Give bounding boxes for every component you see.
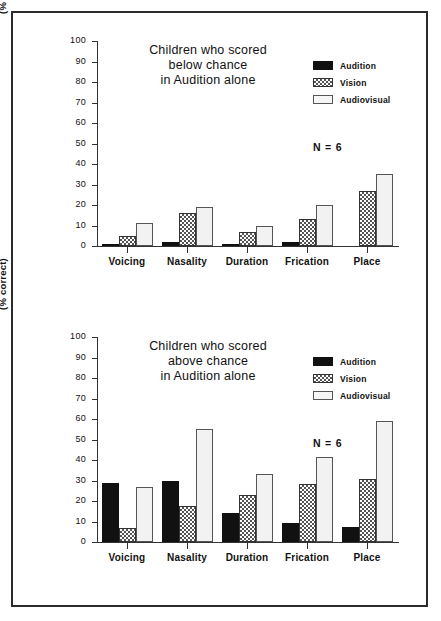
y-tick-30: 30 bbox=[53, 185, 98, 186]
x-tick-duration bbox=[247, 543, 248, 549]
y-tick-label: 70 bbox=[60, 393, 86, 403]
bar-group-nasality bbox=[162, 337, 213, 542]
y-tick-20: 20 bbox=[53, 501, 98, 502]
x-tick-frication bbox=[307, 247, 308, 253]
chart-panel-below-chance: Information Transmitted (% correct) Chil… bbox=[13, 13, 426, 309]
y-tick-label: 10 bbox=[60, 516, 86, 526]
chart-panel-above-chance: Information Transmitted (% correct) Chil… bbox=[13, 309, 426, 605]
y-axis-title: Information Transmitted (% correct) bbox=[0, 199, 9, 369]
y-tick-0: 0 bbox=[53, 542, 98, 543]
x-axis-line bbox=[97, 542, 399, 543]
y-tick-label: 20 bbox=[60, 199, 86, 209]
bar-duration-audiovisual bbox=[256, 226, 273, 247]
bar-place-vision bbox=[359, 479, 376, 542]
bar-frication-audition bbox=[282, 523, 299, 542]
bar-duration-audition bbox=[222, 513, 239, 542]
y-tick-label: 50 bbox=[60, 138, 86, 148]
bar-frication-audition bbox=[282, 242, 299, 246]
bar-voicing-audiovisual bbox=[136, 223, 153, 246]
bar-group-place bbox=[342, 41, 393, 246]
bar-nasality-vision bbox=[179, 213, 196, 246]
bar-frication-vision bbox=[299, 484, 316, 542]
x-tick-place bbox=[367, 543, 368, 549]
y-tick-100: 100 bbox=[53, 337, 98, 338]
x-axis-line bbox=[97, 246, 399, 247]
y-tick-30: 30 bbox=[53, 481, 98, 482]
y-tick-label: 90 bbox=[60, 56, 86, 66]
bar-group-nasality bbox=[162, 41, 213, 246]
y-tick-label: 40 bbox=[60, 454, 86, 464]
x-tick-voicing bbox=[127, 543, 128, 549]
bar-place-audiovisual bbox=[376, 421, 393, 542]
y-tick-label: 30 bbox=[60, 475, 86, 485]
bar-frication-audiovisual bbox=[316, 205, 333, 246]
x-tick-nasality bbox=[187, 543, 188, 549]
y-tick-100: 100 bbox=[53, 41, 98, 42]
y-tick-20: 20 bbox=[53, 205, 98, 206]
bar-place-audition bbox=[342, 527, 359, 542]
x-tick-nasality bbox=[187, 247, 188, 253]
y-tick-40: 40 bbox=[53, 460, 98, 461]
y-tick-60: 60 bbox=[53, 123, 98, 124]
y-tick-label: 50 bbox=[60, 434, 86, 444]
bar-nasality-audiovisual bbox=[196, 207, 213, 246]
bar-voicing-audition bbox=[102, 244, 119, 246]
bar-duration-audition bbox=[222, 244, 239, 246]
y-tick-50: 50 bbox=[53, 440, 98, 441]
y-tick-10: 10 bbox=[53, 226, 98, 227]
y-tick-mark bbox=[92, 542, 98, 543]
x-tick-place bbox=[367, 247, 368, 253]
bar-duration-audiovisual bbox=[256, 474, 273, 542]
y-tick-80: 80 bbox=[53, 82, 98, 83]
bar-place-audiovisual bbox=[376, 174, 393, 246]
bar-group-frication bbox=[282, 337, 333, 542]
bar-voicing-vision bbox=[119, 528, 136, 542]
bar-voicing-audiovisual bbox=[136, 487, 153, 542]
y-axis-title: Information Transmitted (% correct) bbox=[0, 0, 9, 73]
bar-duration-vision bbox=[239, 232, 256, 246]
bar-group-duration bbox=[222, 337, 273, 542]
bar-group-frication bbox=[282, 41, 333, 246]
bar-nasality-audition bbox=[162, 242, 179, 246]
y-tick-70: 70 bbox=[53, 103, 98, 104]
y-tick-label: 80 bbox=[60, 76, 86, 86]
y-tick-80: 80 bbox=[53, 378, 98, 379]
y-tick-label: 20 bbox=[60, 495, 86, 505]
bar-group-duration bbox=[222, 41, 273, 246]
x-axis-label-place: Place bbox=[332, 256, 402, 267]
bar-group-place bbox=[342, 337, 393, 542]
bar-nasality-audiovisual bbox=[196, 429, 213, 542]
y-tick-label: 60 bbox=[60, 413, 86, 423]
y-tick-label: 30 bbox=[60, 179, 86, 189]
bar-nasality-vision bbox=[179, 506, 196, 542]
bar-voicing-vision bbox=[119, 236, 136, 246]
y-tick-label: 0 bbox=[60, 536, 86, 546]
bar-group-voicing bbox=[102, 41, 153, 246]
y-tick-60: 60 bbox=[53, 419, 98, 420]
y-tick-label: 40 bbox=[60, 158, 86, 168]
bar-group-voicing bbox=[102, 337, 153, 542]
y-axis-title-line2: (% correct) bbox=[0, 0, 8, 14]
y-tick-label: 80 bbox=[60, 372, 86, 382]
y-tick-label: 90 bbox=[60, 352, 86, 362]
plot-area bbox=[97, 41, 397, 246]
x-axis-label-place: Place bbox=[332, 552, 402, 563]
y-tick-label: 100 bbox=[60, 331, 86, 341]
y-tick-label: 100 bbox=[60, 35, 86, 45]
x-tick-voicing bbox=[127, 247, 128, 253]
y-axis-title-line2: (% correct) bbox=[0, 258, 8, 310]
y-tick-label: 70 bbox=[60, 97, 86, 107]
y-tick-90: 90 bbox=[53, 62, 98, 63]
y-tick-40: 40 bbox=[53, 164, 98, 165]
bar-voicing-audition bbox=[102, 483, 119, 542]
y-tick-50: 50 bbox=[53, 144, 98, 145]
bar-nasality-audition bbox=[162, 481, 179, 543]
bar-frication-vision bbox=[299, 219, 316, 246]
y-tick-mark bbox=[92, 246, 98, 247]
plot-area bbox=[97, 337, 397, 542]
y-tick-90: 90 bbox=[53, 358, 98, 359]
y-tick-0: 0 bbox=[53, 246, 98, 247]
y-tick-label: 60 bbox=[60, 117, 86, 127]
x-tick-frication bbox=[307, 543, 308, 549]
bar-duration-vision bbox=[239, 495, 256, 542]
